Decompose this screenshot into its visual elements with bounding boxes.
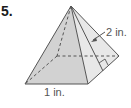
base-edge-label: 1 in. — [44, 87, 65, 98]
pyramid-figure — [0, 0, 131, 108]
slant-height-label: 2 in. — [106, 27, 127, 38]
